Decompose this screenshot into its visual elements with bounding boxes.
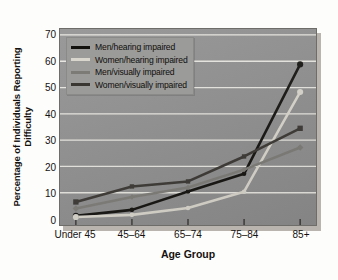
x-axis-tick-labels: Under 4545–6465–7475–8485+ — [59, 229, 317, 243]
data-point-marker — [186, 179, 190, 183]
legend-swatch — [71, 71, 90, 74]
y-tick-label: 10 — [34, 188, 56, 199]
data-point-marker — [297, 126, 302, 131]
y-tick-label: 30 — [34, 135, 56, 146]
x-tick-label: Under 45 — [54, 229, 95, 240]
legend-label: Women/hearing impaired — [95, 55, 188, 65]
data-point-marker — [242, 189, 247, 194]
y-tick-label: 40 — [34, 108, 56, 119]
legend-entry: Men/visually impaired — [71, 66, 188, 79]
data-point-marker — [186, 206, 191, 211]
x-tick-label: 45–64 — [118, 229, 146, 240]
data-point-marker — [73, 205, 79, 211]
x-axis-title: Age Group — [59, 248, 317, 260]
legend-entry: Women/hearing impaired — [71, 54, 188, 67]
y-tick-label: 0 — [34, 215, 56, 226]
data-point-marker — [242, 154, 246, 158]
y-tick-label: 20 — [34, 161, 56, 172]
data-point-marker — [297, 61, 303, 67]
legend-label: Men/hearing impaired — [95, 42, 175, 52]
legend-swatch — [71, 58, 90, 61]
chart-legend: Men/hearing impairedWomen/hearing impair… — [66, 37, 194, 95]
data-point-marker — [130, 184, 134, 188]
y-tick-label: 70 — [34, 29, 56, 40]
data-point-marker — [297, 89, 303, 95]
x-tick-label: 75–84 — [231, 229, 259, 240]
x-tick-label: 65–74 — [174, 229, 202, 240]
chart-figure: Percentage of Individuals Reporting Diff… — [0, 0, 338, 280]
legend-swatch — [71, 46, 90, 49]
legend-entry: Men/hearing impaired — [71, 41, 188, 54]
legend-label: Women/visually impaired — [95, 80, 187, 90]
series-line — [76, 92, 300, 217]
y-tick-label: 60 — [34, 55, 56, 66]
data-point-marker — [130, 213, 135, 218]
data-point-marker — [73, 214, 79, 220]
y-axis-title-line-2: Difficulty — [23, 107, 34, 147]
y-axis-tick-labels: 706050403020100 — [34, 21, 56, 227]
legend-entry: Women/visually impaired — [71, 79, 188, 92]
y-tick-label: 50 — [34, 82, 56, 93]
legend-label: Men/visually impaired — [95, 67, 174, 77]
data-point-marker — [129, 194, 134, 199]
series-line — [76, 148, 300, 209]
data-point-marker — [130, 208, 135, 213]
x-tick-label: 85+ — [293, 229, 310, 240]
legend-swatch — [71, 83, 90, 86]
data-point-marker — [73, 199, 78, 204]
